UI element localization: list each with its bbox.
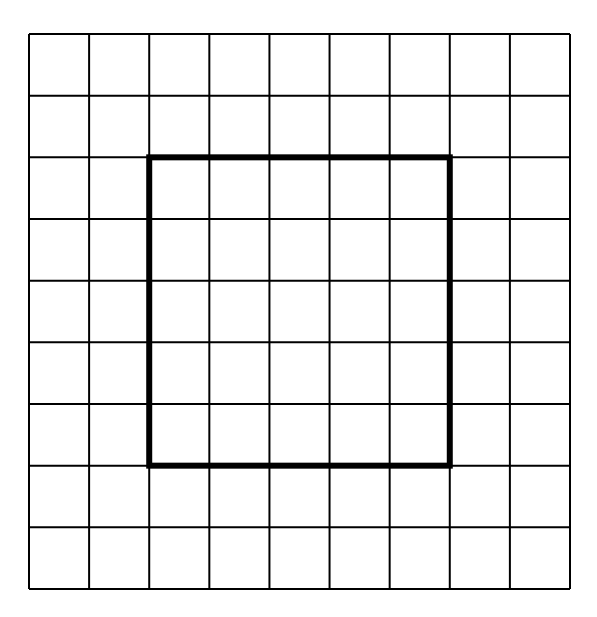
highlighted-square [149, 157, 450, 465]
grid-lines [29, 34, 570, 589]
grid-diagram [0, 0, 597, 617]
